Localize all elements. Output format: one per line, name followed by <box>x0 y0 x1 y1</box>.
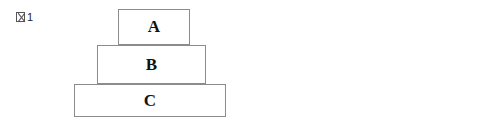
figure-1-block-a: A <box>118 9 190 45</box>
figure-1-block-b: B <box>97 45 206 84</box>
tofu-glyph-icon <box>16 12 25 22</box>
figure-1-label-number: 1 <box>27 11 34 23</box>
figure-1-block-c: C <box>74 84 226 117</box>
figure-1-panel: 1ABC <box>0 0 250 127</box>
figure-2-panel: 2ABC <box>250 0 501 127</box>
figure-1-label: 1 <box>16 11 34 24</box>
